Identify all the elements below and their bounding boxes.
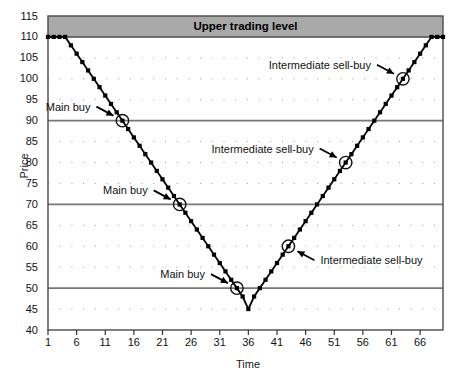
plot-canvas: Main buyMain buyMain buyIntermediate sel…	[0, 0, 454, 380]
data-point-marker	[103, 93, 107, 97]
data-point-marker	[52, 35, 56, 39]
data-point-marker	[218, 261, 222, 265]
upper-trading-band-label: Upper trading level	[193, 20, 297, 32]
data-point-marker	[441, 35, 445, 39]
data-point-marker	[304, 219, 308, 223]
data-point-marker	[269, 269, 273, 273]
data-point-marker	[200, 236, 204, 240]
data-point-marker	[361, 135, 365, 139]
data-point-marker	[286, 244, 290, 248]
data-point-marker	[384, 102, 388, 106]
data-point-marker	[281, 253, 285, 257]
data-point-marker	[332, 177, 336, 181]
data-point-marker	[63, 35, 67, 39]
data-point-marker	[326, 186, 330, 190]
data-point-marker	[424, 43, 428, 47]
data-point-marker	[109, 102, 113, 106]
data-point-marker	[412, 60, 416, 64]
data-point-marker	[92, 77, 96, 81]
data-point-marker	[172, 194, 176, 198]
data-point-marker	[183, 211, 187, 215]
data-point-marker	[309, 211, 313, 215]
data-point-marker	[189, 219, 193, 223]
data-point-marker	[321, 194, 325, 198]
data-point-marker	[235, 286, 239, 290]
data-point-marker	[97, 85, 101, 89]
data-point-marker	[378, 110, 382, 114]
annotation-label: Main buy	[160, 268, 205, 280]
data-point-marker	[292, 236, 296, 240]
data-point-marker	[149, 160, 153, 164]
data-point-marker	[315, 202, 319, 206]
data-point-marker	[252, 294, 256, 298]
data-point-marker	[407, 68, 411, 72]
data-point-marker	[57, 35, 61, 39]
data-point-marker	[338, 169, 342, 173]
data-point-marker	[195, 227, 199, 231]
annotation-label: Intermediate sell-buy	[212, 143, 315, 155]
data-point-marker	[160, 177, 164, 181]
data-point-marker	[155, 169, 159, 173]
data-point-marker	[372, 119, 376, 123]
data-point-marker	[223, 269, 227, 273]
data-point-marker	[80, 60, 84, 64]
data-point-marker	[132, 135, 136, 139]
data-point-marker	[241, 294, 245, 298]
data-point-marker	[275, 261, 279, 265]
data-point-marker	[75, 52, 79, 56]
annotation-label: Main buy	[103, 184, 148, 196]
data-point-marker	[401, 77, 405, 81]
data-point-marker	[178, 202, 182, 206]
data-point-marker	[126, 127, 130, 131]
data-point-marker	[389, 93, 393, 97]
data-point-marker	[395, 85, 399, 89]
annotation-label: Intermediate sell-buy	[320, 254, 423, 266]
data-point-marker	[298, 227, 302, 231]
data-point-marker	[143, 152, 147, 156]
data-point-marker	[86, 68, 90, 72]
data-point-marker	[69, 43, 73, 47]
price-line	[48, 37, 443, 309]
data-point-marker	[46, 35, 50, 39]
data-point-marker	[137, 144, 141, 148]
data-point-marker	[212, 253, 216, 257]
data-point-marker	[366, 127, 370, 131]
annotation-label: Main buy	[46, 101, 91, 113]
data-point-marker	[258, 286, 262, 290]
data-point-marker	[429, 35, 433, 39]
data-point-marker	[349, 152, 353, 156]
data-point-marker	[435, 35, 439, 39]
data-point-marker	[418, 52, 422, 56]
data-point-marker	[166, 186, 170, 190]
data-point-marker	[246, 307, 250, 311]
chart-figure: Price Time 11511010510095908580757065605…	[0, 0, 454, 380]
data-point-marker	[120, 119, 124, 123]
data-point-marker	[355, 144, 359, 148]
annotation-label: Intermediate sell-buy	[269, 59, 372, 71]
plot-frame	[48, 16, 443, 330]
data-point-marker	[206, 244, 210, 248]
data-point-marker	[263, 278, 267, 282]
data-point-marker	[115, 110, 119, 114]
data-point-marker	[229, 278, 233, 282]
data-point-marker	[344, 160, 348, 164]
